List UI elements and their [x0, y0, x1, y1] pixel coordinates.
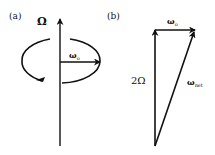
panel-a-graphics	[22, 19, 100, 146]
omega-o-label-b: ωo	[167, 17, 178, 27]
omega-net-label: ωnet	[187, 78, 203, 88]
precession-arc-right	[62, 39, 100, 83]
precession-arc-left	[22, 39, 50, 81]
omega-axis-label: Ω	[37, 16, 47, 27]
omega-net-label-base: ω	[187, 77, 195, 87]
vector-diagram-figure: (a) Ω ωo (b) ωo 2Ω ωnet	[0, 0, 215, 155]
diagram-graphics	[0, 0, 215, 155]
omega-net-label-sub: net	[195, 82, 203, 88]
panel-b-graphics	[155, 30, 195, 146]
omega-o-label-a-sub: o	[77, 55, 80, 61]
omega-net-vector-arrow	[155, 32, 194, 146]
omega-o-label-b-sub: o	[175, 21, 178, 27]
two-omega-label: 2Ω	[131, 76, 146, 86]
omega-o-label-b-base: ω	[167, 16, 175, 26]
omega-o-label-a-base: ω	[69, 50, 77, 60]
omega-o-label-a: ωo	[69, 51, 80, 61]
panel-a-label: (a)	[9, 12, 21, 21]
panel-b-label: (b)	[107, 12, 120, 21]
